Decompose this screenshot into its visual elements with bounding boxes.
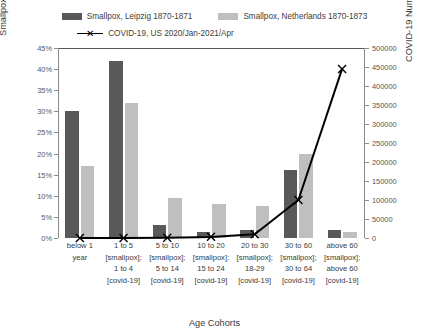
legend-row-2: ✕ COVID-19, US 2020/Jan-2021/Apr	[0, 25, 429, 42]
legend-item-covid[interactable]: ✕ COVID-19, US 2020/Jan-2021/Apr	[77, 29, 234, 39]
y-tick-label-left: 20%	[22, 149, 52, 158]
y-tick-label-left: 25%	[22, 128, 52, 137]
legend-line-marker-icon: ✕	[77, 29, 103, 39]
y-axis-right-title: COVID-19 Number of Deaths (N), US	[404, 0, 414, 62]
y-tick-label-right: 100000	[372, 196, 412, 205]
y-tick-label-left: 10%	[22, 191, 52, 200]
y-tick-right	[365, 105, 369, 106]
y-tick-label-right: 500000	[372, 44, 412, 53]
chart-container: Smallpox, Leipzig 1870-1871 Smallpox, Ne…	[0, 0, 429, 334]
legend-label-covid: COVID-19, US 2020/Jan-2021/Apr	[108, 29, 234, 38]
y-tick-label-right: 300000	[372, 120, 412, 129]
covid-line-series	[58, 48, 364, 238]
legend-swatch-light-icon	[218, 13, 238, 20]
plot-area: 0%5%10%15%20%25%30%35%40%45% 05000010000…	[58, 48, 364, 238]
legend-item-netherlands[interactable]: Smallpox, Netherlands 1870-1873	[218, 12, 367, 21]
y-tick-label-left: 35%	[22, 86, 52, 95]
legend-item-leipzig[interactable]: Smallpox, Leipzig 1870-1871	[62, 12, 193, 21]
chart-legend: Smallpox, Leipzig 1870-1871 Smallpox, Ne…	[0, 8, 429, 42]
y-tick-right	[365, 181, 369, 182]
y-tick-label-left: 15%	[22, 170, 52, 179]
legend-row-1: Smallpox, Leipzig 1870-1871 Smallpox, Ne…	[0, 8, 429, 25]
covid-line-path	[80, 69, 342, 238]
y-tick-right	[365, 238, 369, 239]
y-tick-right	[365, 67, 369, 68]
y-tick-label-right: 400000	[372, 82, 412, 91]
x-tick-label: above 60[smallpox];above 60[covid-19]	[316, 240, 368, 286]
x-axis-title: Age Cohorts	[0, 318, 429, 328]
y-tick-label-right: 50000	[372, 215, 412, 224]
y-tick-label-left: 45%	[22, 44, 52, 53]
y-tick-label-right: 200000	[372, 158, 412, 167]
y-tick-label-left: 5%	[22, 212, 52, 221]
y-tick-label-right: 450000	[372, 63, 412, 72]
legend-label-netherlands: Smallpox, Netherlands 1870-1873	[243, 12, 367, 21]
y-tick-label-right: 350000	[372, 101, 412, 110]
y-tick-label-right: 0	[372, 234, 412, 243]
y-axis-left-title: Smallpox Mortality Rate (%), Leipzig and…	[0, 0, 8, 36]
y-tick-label-right: 150000	[372, 177, 412, 186]
y-tick-right	[365, 48, 369, 49]
y-tick-label-left: 40%	[22, 65, 52, 74]
y-tick-right	[365, 124, 369, 125]
y-tick-right	[365, 86, 369, 87]
y-tick-right	[365, 219, 369, 220]
y-tick-label-left: 30%	[22, 107, 52, 116]
x-axis-tick-labels: below 1year1 to 5[smallpox];1 to 4[covid…	[58, 240, 364, 316]
legend-label-leipzig: Smallpox, Leipzig 1870-1871	[87, 12, 193, 21]
y-tick-right	[365, 162, 369, 163]
legend-swatch-dark-icon	[62, 13, 82, 20]
y-tick-label-left: 0%	[22, 234, 52, 243]
y-tick-label-right: 250000	[372, 139, 412, 148]
y-tick-right	[365, 143, 369, 144]
y-tick-left	[54, 238, 58, 239]
y-tick-right	[365, 200, 369, 201]
